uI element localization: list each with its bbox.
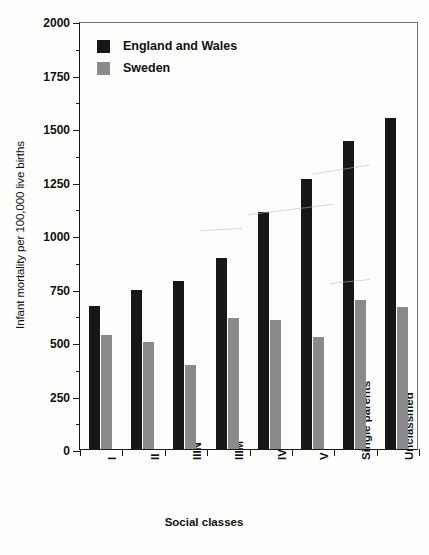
y-tick-label: 1500 bbox=[43, 123, 70, 137]
legend-label: England and Wales bbox=[123, 39, 237, 53]
x-tick-mark bbox=[207, 449, 208, 456]
y-tick-mark bbox=[73, 451, 80, 452]
x-tick-mark bbox=[334, 449, 335, 456]
y-minor-tick bbox=[76, 264, 80, 265]
x-tick-mark bbox=[80, 449, 81, 456]
bar-v-england-and-wales bbox=[301, 179, 312, 449]
y-tick-label: 1750 bbox=[43, 70, 70, 84]
y-axis-title: Infant mortality per 100,000 live births bbox=[14, 0, 34, 470]
x-tick-mark bbox=[122, 449, 123, 456]
y-minor-tick bbox=[76, 424, 80, 425]
chart-legend: England and WalesSweden bbox=[97, 39, 237, 83]
x-tick-mark bbox=[165, 449, 166, 456]
x-tick-label-v: V bbox=[318, 452, 330, 460]
y-minor-tick bbox=[76, 157, 80, 158]
bar-i-england-and-wales bbox=[89, 306, 100, 449]
x-tick-mark bbox=[250, 449, 251, 456]
legend-label: Sweden bbox=[123, 61, 170, 75]
x-tick-label-iv: IV bbox=[276, 449, 288, 460]
x-tick-label-ii: II bbox=[149, 454, 161, 460]
bar-i-sweden bbox=[101, 335, 112, 449]
chart-figure: Infant mortality per 100,000 live births… bbox=[0, 0, 429, 555]
bar-unclassified-england-and-wales bbox=[385, 118, 396, 449]
scan-artifact bbox=[312, 164, 369, 174]
y-minor-tick bbox=[76, 371, 80, 372]
y-minor-tick bbox=[76, 50, 80, 51]
y-tick-label: 1000 bbox=[43, 230, 70, 244]
y-tick-mark bbox=[73, 237, 80, 238]
legend-item-england-and-wales: England and Wales bbox=[97, 39, 237, 53]
x-tick-mark bbox=[292, 449, 293, 456]
bar-iiin-england-and-wales bbox=[173, 281, 184, 449]
y-tick-mark bbox=[73, 23, 80, 24]
bar-ii-england-and-wales bbox=[131, 290, 142, 449]
y-tick-label: 500 bbox=[50, 337, 70, 351]
y-tick-label: 0 bbox=[63, 444, 70, 458]
legend-swatch-icon bbox=[97, 62, 110, 75]
x-tick-mark bbox=[377, 449, 378, 456]
y-tick-mark bbox=[73, 77, 80, 78]
bar-iiim-england-and-wales bbox=[216, 258, 227, 449]
legend-item-sweden: Sweden bbox=[97, 61, 237, 75]
y-tick-mark bbox=[73, 184, 80, 185]
bar-iv-england-and-wales bbox=[258, 212, 269, 449]
bar-single-parents-england-and-wales bbox=[343, 141, 354, 449]
bar-iiim-sweden bbox=[228, 318, 239, 449]
y-tick-label: 2000 bbox=[43, 16, 70, 30]
y-minor-tick bbox=[76, 103, 80, 104]
bar-ii-sweden bbox=[143, 342, 154, 449]
bar-iiin-sweden bbox=[185, 365, 196, 449]
y-tick-label: 250 bbox=[50, 391, 70, 405]
y-tick-mark bbox=[73, 291, 80, 292]
x-tick-mark bbox=[419, 449, 420, 456]
y-tick-mark bbox=[73, 344, 80, 345]
plot-area: 025050075010001250150017502000 IIIIIINII… bbox=[79, 22, 418, 450]
bar-iv-sweden bbox=[270, 320, 281, 449]
bar-unclassified-sweden bbox=[397, 307, 408, 449]
legend-swatch-icon bbox=[97, 40, 110, 53]
y-tick-mark bbox=[73, 130, 80, 131]
y-minor-tick bbox=[76, 317, 80, 318]
y-tick-label: 1250 bbox=[43, 177, 70, 191]
y-tick-label: 750 bbox=[50, 284, 70, 298]
y-tick-mark bbox=[73, 398, 80, 399]
y-minor-tick bbox=[76, 210, 80, 211]
scan-artifact bbox=[200, 228, 242, 231]
x-axis-title: Social classes bbox=[79, 516, 329, 528]
x-tick-label-i: I bbox=[106, 457, 118, 460]
bar-v-sweden bbox=[313, 337, 324, 449]
bar-single-parents-sweden bbox=[355, 300, 366, 449]
